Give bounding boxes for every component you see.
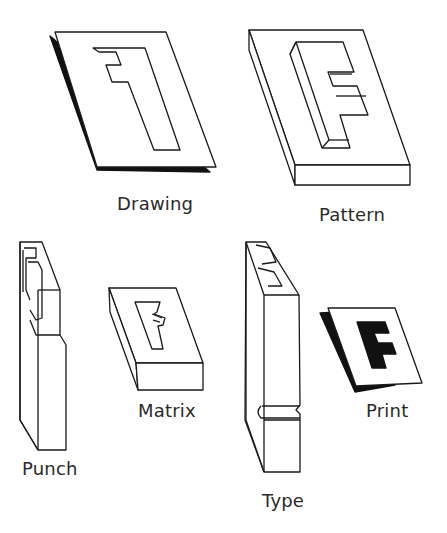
punch-illustration bbox=[20, 242, 66, 450]
type-founding-diagram: Drawing Pattern Punch Matrix Type Print bbox=[0, 0, 447, 533]
label-punch: Punch bbox=[22, 458, 78, 479]
pattern-illustration bbox=[249, 30, 410, 185]
label-type: Type bbox=[262, 490, 304, 511]
type-illustration bbox=[245, 242, 300, 472]
label-print: Print bbox=[366, 400, 408, 421]
label-pattern: Pattern bbox=[319, 204, 385, 225]
label-matrix: Matrix bbox=[138, 400, 196, 421]
drawing-illustration bbox=[50, 32, 216, 172]
label-drawing: Drawing bbox=[117, 193, 193, 214]
print-illustration bbox=[320, 308, 422, 392]
matrix-illustration bbox=[109, 288, 203, 390]
